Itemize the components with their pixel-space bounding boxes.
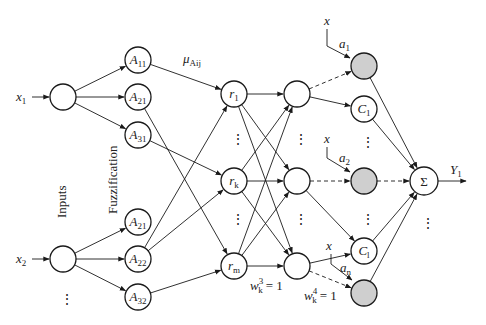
consequent-input-a2: x a2	[323, 131, 350, 172]
consequent-node-g2	[351, 168, 377, 194]
consequent-node-gn	[351, 280, 377, 306]
svg-text:a2: a2	[339, 150, 350, 167]
edge-rk-n1	[242, 105, 289, 170]
edge-x2-A21b	[75, 228, 126, 253]
edge-x2-A32	[75, 265, 126, 291]
edge-A21a-rm	[144, 108, 227, 254]
ellipsis-cons-lower: ⋮	[361, 212, 375, 227]
edge-x1-A31	[75, 103, 126, 129]
input-label-x2: x2	[15, 251, 26, 268]
edge-nk-Cl	[306, 190, 354, 240]
edge-r1-nk	[242, 105, 289, 170]
ellipsis-norm-lower: ⋮	[294, 212, 308, 227]
output-label: Y1	[450, 162, 462, 179]
svg-text:x: x	[325, 238, 332, 253]
edge-n1-C1	[310, 97, 351, 106]
consequent-input-a1: x a1	[323, 13, 350, 58]
normalization-node-nm	[284, 253, 310, 279]
svg-text:x: x	[323, 13, 330, 28]
edge-A11-r1	[150, 64, 221, 89]
edge-A22-rk	[148, 190, 223, 251]
sum-symbol: Σ	[420, 174, 428, 189]
svg-text:a1: a1	[339, 36, 350, 53]
ellipsis-inputs: ⋮	[60, 292, 74, 307]
edge-C1-sum	[372, 119, 414, 169]
svg-text:an: an	[340, 260, 352, 277]
ellipsis-rules-upper: ⋮	[231, 132, 245, 147]
normalization-node-n1	[284, 81, 310, 107]
edge-A31-rk	[150, 141, 222, 175]
consequent-node-g1	[351, 53, 377, 79]
weight-label-w4: w4k= 1	[304, 286, 337, 305]
edge-A22-r1	[145, 106, 227, 248]
edge-n1-g1	[309, 71, 351, 89]
ellipsis-norm-upper: ⋮	[294, 132, 308, 147]
edge-A32-rm	[150, 270, 220, 293]
ellipsis-rules-lower: ⋮	[231, 212, 245, 227]
svg-text:x: x	[323, 131, 330, 146]
membership-edge-label: μAij	[182, 51, 201, 68]
layer-label-fuzzification: Fuzzification	[105, 145, 120, 214]
layer-label-inputs: Inputs	[54, 186, 69, 219]
edge-x1-A11	[75, 66, 126, 91]
weight-label-w3: w3k= 1	[250, 276, 283, 295]
anfis-diagram: A11A21A31A21A22A32r1rkrmC1ClΣ x1 x2 Inpu…	[0, 0, 486, 325]
input-node-x2	[50, 246, 76, 272]
edge-Cl-sum	[372, 192, 414, 241]
edge-g1-sum	[370, 78, 417, 168]
input-label-x1: x1	[15, 89, 26, 106]
edge-gn-sum	[370, 194, 417, 281]
normalization-node-nk	[284, 168, 310, 194]
ellipsis-cons-upper: ⋮	[361, 135, 375, 150]
ellipsis-output: ⋮	[421, 216, 435, 231]
input-node-x1	[50, 84, 76, 110]
